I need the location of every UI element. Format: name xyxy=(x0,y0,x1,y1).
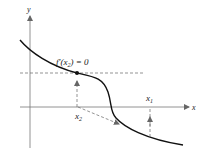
derivative-annotation: f′(x2) = 0 xyxy=(56,57,89,68)
function-curve xyxy=(20,40,183,145)
y-axis-label: y xyxy=(26,5,31,14)
x1-label: x1 xyxy=(145,93,153,104)
newton-method-diagram: y x f′(x2) = 0 x2 x1 xyxy=(0,0,204,153)
x-axis-label: x xyxy=(191,103,196,112)
critical-point xyxy=(75,71,79,75)
x2-label: x2 xyxy=(74,111,82,122)
tangent-arrow xyxy=(78,107,119,124)
